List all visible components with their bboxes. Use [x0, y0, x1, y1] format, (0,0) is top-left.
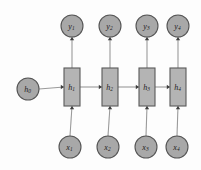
edge-x2-h2 — [108, 106, 112, 136]
output-node-y2[interactable]: y2 — [99, 15, 121, 37]
edge-x1-h1 — [70, 106, 74, 136]
input-node-x4[interactable]: x4 — [166, 136, 188, 158]
output-node-y4[interactable]: y4 — [167, 15, 189, 37]
edge-x3-h3 — [145, 106, 149, 136]
edge-h1-h2 — [80, 85, 102, 89]
edge-h1-y1 — [70, 37, 74, 68]
hidden-state-node-h3[interactable]: h3 — [139, 68, 155, 106]
hidden-state-node-h4[interactable]: h4 — [170, 68, 186, 106]
hidden-state-node-h2[interactable]: h2 — [102, 68, 118, 106]
hidden-state-node-h1[interactable]: h1 — [64, 68, 80, 106]
edge-h4-y4 — [176, 37, 180, 68]
input-node-x2[interactable]: x2 — [97, 136, 119, 158]
edge-h2-y2 — [108, 37, 112, 68]
edge-h0-h1 — [39, 85, 64, 89]
rnn-diagram: h0h1h2h3h4y1y2y3y4x1x2x3x4 — [0, 0, 201, 170]
input-node-x3[interactable]: x3 — [135, 136, 157, 158]
output-node-y3[interactable]: y3 — [136, 15, 158, 37]
edge-x4-h4 — [176, 106, 180, 136]
edge-h2-h3 — [118, 85, 139, 89]
input-node-x1[interactable]: x1 — [59, 136, 81, 158]
initial-state-node-h0[interactable]: h0 — [17, 78, 39, 100]
edge-h3-y3 — [145, 37, 149, 68]
edge-h3-h4 — [155, 85, 170, 89]
output-node-y1[interactable]: y1 — [61, 15, 83, 37]
rnn-diagram-canvas: h0h1h2h3h4y1y2y3y4x1x2x3x4 — [0, 0, 201, 170]
